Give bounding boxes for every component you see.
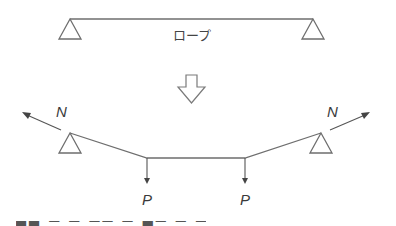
loaded-rope-figure: N N P P bbox=[22, 103, 370, 208]
right-load-arrow: P bbox=[240, 158, 250, 208]
hollow-down-arrow-icon bbox=[178, 75, 205, 103]
rope-label: ロープ bbox=[173, 28, 211, 43]
diagram-canvas: ロープ N N P bbox=[0, 0, 396, 226]
arrow-head-icon bbox=[144, 178, 150, 184]
arrow-head-icon bbox=[361, 112, 370, 119]
arrow-head-icon bbox=[22, 112, 31, 119]
rope-tension-diagram: ロープ N N P bbox=[0, 0, 396, 226]
tension-label-right: N bbox=[327, 103, 338, 120]
tension-label-left: N bbox=[56, 103, 67, 120]
arrow-head-icon bbox=[242, 178, 248, 184]
caption-glyph-tops: ▀▀ ▔ ▔ ▔▔ ▔ ▀▔ ▔ ▔ ▀▀ bbox=[16, 221, 206, 226]
left-tension-arrow: N bbox=[22, 103, 67, 130]
right-support-triangle-icon bbox=[302, 19, 324, 39]
sagging-rope bbox=[70, 133, 321, 158]
figure-caption-cropped: ▀▀ ▔ ▔ ▔▔ ▔ ▀▔ ▔ ▔ ▀▀ bbox=[16, 221, 206, 226]
load-label-left: P bbox=[142, 191, 152, 208]
right-tension-arrow: N bbox=[327, 103, 370, 130]
straight-rope-figure: ロープ bbox=[59, 19, 324, 43]
left-support-triangle-icon bbox=[59, 19, 81, 39]
left-load-arrow: P bbox=[142, 158, 152, 208]
load-label-right: P bbox=[240, 191, 250, 208]
